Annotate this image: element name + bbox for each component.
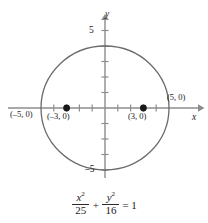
equation-y-numerator: y2 <box>104 192 118 204</box>
y-tick-label-5: 5 <box>89 26 94 36</box>
x-axis-arrow-icon <box>198 104 205 112</box>
equation-x-denominator: 25 <box>72 205 89 217</box>
y-tick-label-negative-5: –5 <box>85 165 95 175</box>
equation-x-exponent: 2 <box>81 191 85 199</box>
equation-y-fraction: y2 16 <box>102 192 119 216</box>
y-axis-label: y <box>105 10 109 20</box>
ellipse-equation: x2 25 + y2 16 = 1 <box>0 186 208 223</box>
equation-equals-one: = 1 <box>122 198 136 211</box>
x-axis-label: x <box>192 113 196 123</box>
equation-y-denominator: 16 <box>102 205 119 217</box>
equation-y-exponent: 2 <box>112 191 116 199</box>
label-right-focus: (3, 0) <box>128 112 146 121</box>
equation-x-fraction: x2 25 <box>72 192 89 216</box>
ellipse-figure: (–5, 0) (–3, 0) (3, 0) (5, 0) 5 –5 y x x… <box>0 0 208 223</box>
equation-plus-sign: + <box>93 198 99 211</box>
equation-x-numerator: x2 <box>73 192 87 204</box>
label-left-focus: (–3, 0) <box>47 112 70 121</box>
label-right-vertex: (5, 0) <box>167 93 185 102</box>
label-left-vertex: (–5, 0) <box>10 110 33 119</box>
